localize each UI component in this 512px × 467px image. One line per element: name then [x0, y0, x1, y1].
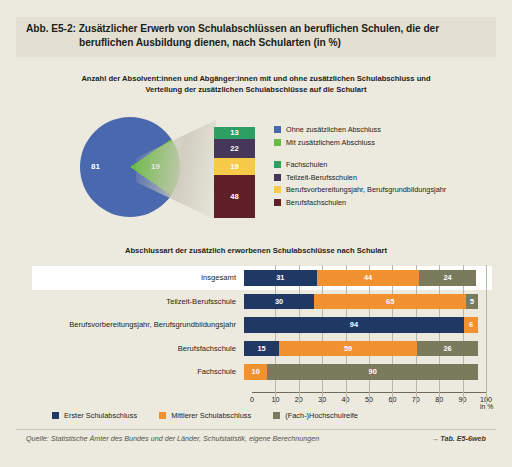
chart-row-label: Fachschule: [40, 367, 244, 376]
legend-item: Berufsvorbereitungsjahr, Berufsgrundbild…: [274, 184, 494, 196]
legend-swatch-icon: [274, 161, 281, 168]
column-segment: 13: [214, 127, 255, 139]
bar-segment: 24: [419, 270, 475, 286]
chart-row-label: Insgesamt: [40, 273, 244, 282]
figure-title-band: Abb. E5-2: Zusätzlicher Erwerb von Schul…: [16, 17, 496, 57]
legend-label: Teilzeit-Berufsschulen: [286, 173, 357, 182]
chart-row-label: Teilzeit-Berufsschule: [40, 297, 244, 306]
legend-item: Mittlerer Schulabschluss: [159, 411, 251, 420]
legend-label: Mittlerer Schulabschluss: [171, 411, 251, 420]
legend-label: (Fach-)Hochschulreife: [285, 411, 358, 420]
figure-card: Abb. E5-2: Zusätzlicher Erwerb von Schul…: [16, 17, 496, 451]
bar-segment: 31: [244, 270, 317, 286]
chart-row-label: Berufsvorbereitungsjahr, Berufsgrundbild…: [40, 320, 244, 329]
source-note: Quelle: Statistische Ämter des Bundes un…: [26, 434, 319, 443]
axis-tick-label: 30: [318, 395, 326, 404]
bar-segment: 44: [317, 270, 420, 286]
legend-label: Mit zusätzlichem Abschluss: [286, 138, 375, 147]
legend-swatch-icon: [273, 412, 280, 419]
chart-row: Insgesamt314424: [40, 267, 492, 289]
legend-item: Teilzeit-Berufsschulen: [274, 171, 494, 183]
legend-label: Fachschulen: [286, 160, 327, 169]
legend-swatch-icon: [274, 186, 281, 193]
footer-divider: [16, 429, 496, 430]
axis-line: [252, 392, 486, 393]
legend-item: Erster Schulabschluss: [52, 411, 137, 420]
chart-row: Fachschule1090: [40, 361, 492, 383]
axis-tick-label: 10: [271, 395, 279, 404]
axis-tick-label: 50: [365, 395, 373, 404]
axis-tick-label: 70: [412, 395, 420, 404]
legend-item: (Fach-)Hochschulreife: [273, 411, 358, 420]
bar-segment: 5: [466, 294, 478, 310]
legend-label: Ohne zusätzlichen Abschluss: [286, 125, 381, 134]
bar-segment: 15: [244, 341, 279, 357]
legend-item: Fachschulen: [274, 159, 494, 171]
upper-subtitle-line2: Verteilung der zusätzlichen Schulabschlü…: [66, 84, 446, 95]
bar-segment: 26: [417, 341, 478, 357]
upper-subtitle-line1: Anzahl der Absolvent:innen und Abgänger:…: [66, 73, 446, 84]
chart-row-label: Berufsfachschule: [40, 344, 244, 353]
bar-segment: 30: [244, 294, 314, 310]
legend-swatch-icon: [159, 412, 166, 419]
legend-item: Mit zusätzlichem Abschluss: [274, 137, 494, 149]
upper-chart-subtitle: Anzahl der Absolvent:innen und Abgänger:…: [66, 73, 446, 95]
bar-segment: 59: [279, 341, 417, 357]
axis-tick-label: 80: [435, 395, 443, 404]
axis-tick-label: 40: [342, 395, 350, 404]
column-segment: 22: [214, 139, 255, 159]
legend-spacer: [274, 150, 494, 159]
legend-swatch-icon: [274, 174, 281, 181]
bar-segment: 65: [314, 294, 466, 310]
lower-legend: Erster SchulabschlussMittlerer Schulabsc…: [52, 411, 380, 420]
bar-segment: 6: [464, 317, 478, 333]
chart-row: Berufsfachschule155926: [40, 338, 492, 360]
stacked-bar: 946: [244, 317, 478, 333]
pie-value-ohne: 81: [91, 162, 100, 171]
figure-title-line2: beruflichen Ausbildung dienen, nach Schu…: [26, 36, 488, 50]
column-segment: 48: [214, 175, 255, 218]
upper-legend: Ohne zusätzlichen AbschlussMit zusätzlic…: [274, 124, 494, 210]
legend-swatch-icon: [274, 139, 281, 146]
legend-label: Berufsvorbereitungsjahr, Berufsgrundbild…: [286, 185, 446, 194]
legend-swatch-icon: [274, 199, 281, 206]
axis-tick-label: 60: [388, 395, 396, 404]
figure-number: Abb. E5-2:: [26, 23, 76, 34]
figure-title: Abb. E5-2: Zusätzlicher Erwerb von Schul…: [26, 22, 488, 50]
stacked-column-chart: 13221948: [214, 127, 255, 218]
axis-tick-label: 100: [480, 395, 492, 404]
column-segment: 19: [214, 158, 255, 175]
chart-x-axis: in % 0102030405060708090100: [252, 392, 500, 412]
stacked-bar: 1090: [244, 364, 478, 380]
axis-tick-label: 20: [295, 395, 303, 404]
bar-segment: 94: [244, 317, 464, 333]
table-reference-link[interactable]: → Tab. E5-6web: [431, 434, 486, 443]
stacked-bar: 155926: [244, 341, 478, 357]
axis-tick-label: 0: [250, 395, 254, 404]
lower-chart-subtitle: Abschlussart der zusätzlich erworbenen S…: [56, 245, 456, 256]
bar-segment: 90: [267, 364, 478, 380]
legend-item: Berufsfachschulen: [274, 197, 494, 209]
axis-unit-label: in %: [480, 403, 493, 410]
axis-tick-label: 90: [459, 395, 467, 404]
stacked-bar: 30655: [244, 294, 478, 310]
horizontal-bar-chart: Insgesamt314424Teilzeit-Berufsschule3065…: [40, 267, 492, 407]
chart-row: Berufsvorbereitungsjahr, Berufsgrundbild…: [40, 314, 492, 336]
legend-label: Berufsfachschulen: [286, 198, 346, 207]
legend-item: Ohne zusätzlichen Abschluss: [274, 124, 494, 136]
bar-segment: 10: [244, 364, 267, 380]
legend-label: Erster Schulabschluss: [64, 411, 137, 420]
chart-row: Teilzeit-Berufsschule30655: [40, 291, 492, 313]
stacked-bar: 314424: [244, 270, 478, 286]
legend-swatch-icon: [52, 412, 59, 419]
legend-swatch-icon: [274, 126, 281, 133]
figure-page: Abb. E5-2: Zusätzlicher Erwerb von Schul…: [0, 0, 512, 467]
figure-title-line1: Zusätzlicher Erwerb von Schulabschlüssen…: [79, 23, 439, 34]
